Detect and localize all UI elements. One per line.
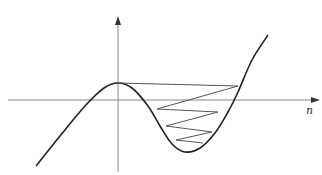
x-axis-arrow-icon (311, 97, 320, 103)
x-axis-label: n (306, 104, 313, 117)
cobweb-diagram (0, 0, 322, 175)
axes (8, 16, 320, 172)
y-axis-arrow-icon (115, 16, 121, 25)
